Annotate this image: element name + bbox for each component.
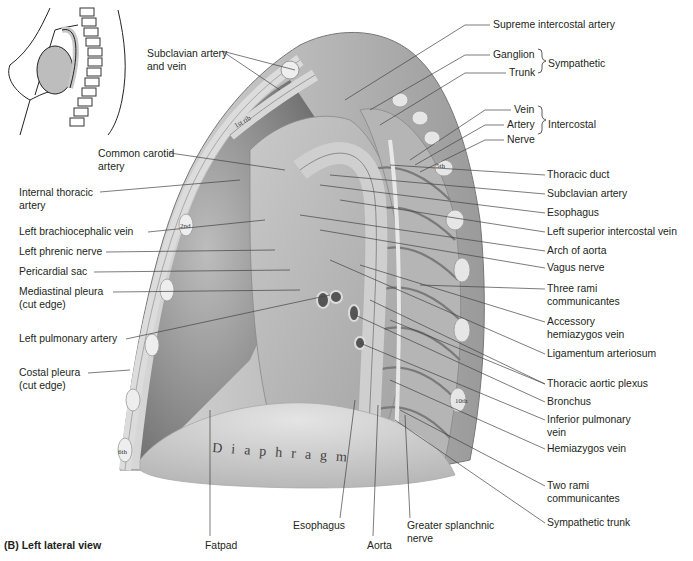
label-left-phrenic-nerve: Left phrenic nerve [19,246,102,259]
label-aorta: Aorta [367,540,392,553]
svg-text:6th: 6th [118,448,127,456]
label-intercostal-group: Intercostal [548,119,596,130]
label-sympathetic-trunk: Sympathetic trunk [547,517,630,530]
label-esophagus-lower: Esophagus [293,520,345,533]
label-left-pulmonary-artery: Left pulmonary artery [19,333,117,346]
label-hemiazygos-vein: Hemiazygos vein [547,443,626,456]
label-pericardial-sac: Pericardial sac [19,266,87,279]
figure-caption: (B) Left lateral view [4,539,101,551]
label-ganglion: Ganglion [493,49,535,62]
label-vein: Vein [514,104,534,117]
label-subclavian-artery: Subclavian artery [547,188,627,201]
label-arch-of-aorta: Arch of aorta [547,245,607,258]
label-nerve: Nerve [507,134,535,147]
label-two-rami-communicantes: Two ramicommunicantes [547,480,620,505]
label-accessory-hemiazygos-vein: Accessoryhemiazygos vein [547,316,624,341]
thorax-illustration: 1st rib 2nd 5th 6th 10th Diaphragm [0,0,693,561]
inset-diagram [9,8,126,135]
label-common-carotid-artery: Common carotidartery [98,148,174,173]
svg-text:10th: 10th [455,397,468,405]
label-esophagus-upper: Esophagus [547,207,599,220]
svg-text:5th: 5th [436,162,445,170]
label-subclavian-artery-vein: Subclavian arteryand vein [147,48,227,73]
label-artery: Artery [507,119,535,132]
label-inferior-pulmonary-vein: Inferior pulmonaryvein [547,414,631,439]
label-thoracic-duct: Thoracic duct [547,169,609,182]
label-three-rami-communicantes: Three ramicommunicantes [547,283,620,308]
label-ligamentum-arteriosum: Ligamentum arteriosum [547,348,656,361]
label-fatpad: Fatpad [205,540,237,553]
label-left-superior-intercostal-vein: Left superior intercostal vein [547,226,677,239]
label-left-brachiocephalic-vein: Left brachiocephalic vein [19,226,133,239]
label-costal-pleura: Costal pleura(cut edge) [19,367,80,392]
anatomy-figure: 1st rib 2nd 5th 6th 10th Diaphragm Subcl… [0,0,693,561]
label-vagus-nerve: Vagus nerve [547,262,605,275]
label-sympathetic-group: Sympathetic [548,58,605,69]
label-greater-splanchnic-nerve: Greater splanchnicnerve [407,520,494,545]
label-mediastinal-pleura: Mediastinal pleura(cut edge) [19,286,103,311]
label-supreme-intercostal-artery: Supreme intercostal artery [493,19,615,32]
label-trunk: Trunk [509,67,535,80]
label-internal-thoracic-artery: Internal thoracicartery [19,187,93,212]
label-bronchus: Bronchus [547,396,591,409]
svg-text:2nd: 2nd [180,222,191,230]
label-thoracic-aortic-plexus: Thoracic aortic plexus [547,378,648,391]
